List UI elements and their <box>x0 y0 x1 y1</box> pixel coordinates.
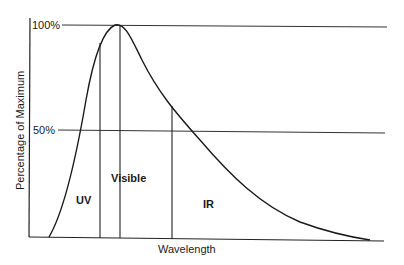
x-axis-title: Wavelength <box>158 243 216 255</box>
uv-label: UV <box>76 194 92 206</box>
spectrum-diagram: 100% 50% Percentage of Maximum Wavelengt… <box>0 0 404 265</box>
visible-label: Visible <box>111 172 146 184</box>
x-axis <box>29 237 384 241</box>
y-tick-100: 100% <box>32 19 60 31</box>
gridline-50 <box>58 130 385 133</box>
y-tick-50: 50% <box>33 124 55 136</box>
gridline-100 <box>62 25 387 27</box>
y-axis <box>29 18 30 237</box>
y-axis-title: Percentage of Maximum <box>14 71 26 190</box>
ir-label: IR <box>203 198 214 210</box>
